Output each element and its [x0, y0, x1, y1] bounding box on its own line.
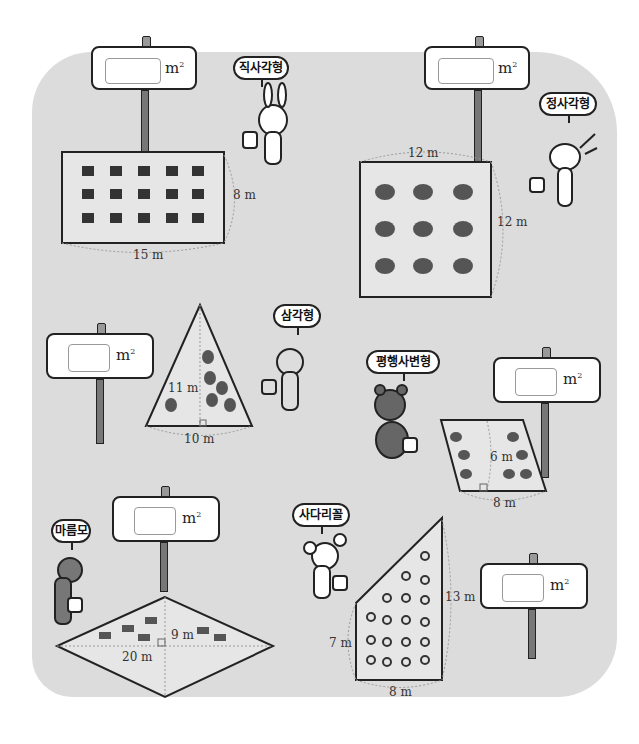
rectangle-height-label: 8 m: [233, 188, 256, 202]
wolf-character: [55, 558, 82, 624]
rectangle-width-label: 15 m: [133, 248, 163, 262]
rabbit-character: [243, 83, 287, 164]
square-field: [360, 152, 503, 297]
trapezoid-height-label: 8 m: [389, 685, 412, 699]
trapezoid-short-side-label: 7 m: [329, 636, 352, 650]
parallelogram-base-label: 8 m: [493, 496, 516, 510]
rhombus-field: [57, 597, 273, 697]
square-side-label: 12 m: [497, 215, 527, 229]
rectangle-field: [62, 152, 235, 253]
parallelogram-height-label: 6 m: [490, 450, 513, 464]
trapezoid-long-side-label: 13 m: [445, 590, 475, 604]
rhombus-short-diag-label: 9 m: [171, 628, 194, 642]
rhombus-long-diag-label: 20 m: [122, 650, 152, 664]
trapezoid-field: [348, 518, 451, 688]
square-top-label: 12 m: [408, 146, 438, 160]
poodle-character: [304, 534, 347, 598]
dog-character: [530, 134, 597, 206]
triangle-height-label: 11 m: [168, 381, 198, 395]
garden-shapes: [0, 0, 639, 744]
cat-character: [262, 349, 303, 410]
triangle-base-label: 10 m: [184, 432, 214, 446]
bear-character: [375, 385, 417, 458]
triangle-field: [146, 305, 252, 436]
